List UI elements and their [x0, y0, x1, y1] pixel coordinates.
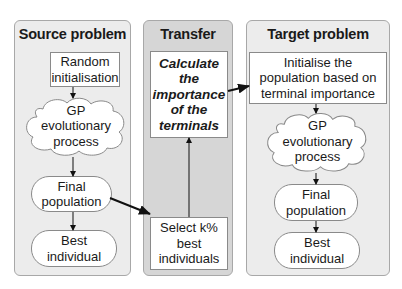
node-line: process	[282, 149, 352, 165]
node-line: terminals	[153, 118, 226, 134]
node-line: GP	[41, 103, 111, 119]
node-line: process	[41, 134, 111, 150]
node-line: the	[153, 71, 226, 87]
node-line: Final	[42, 179, 102, 195]
node-line: terminal importance	[259, 86, 376, 102]
node-line: Select k%	[159, 220, 220, 236]
node-line: Calculate	[153, 56, 226, 72]
node-line: Random	[51, 54, 118, 70]
node-line: Best	[47, 233, 101, 249]
target-best-individual-node: Best individual	[274, 232, 360, 269]
node-line: Final	[286, 187, 346, 203]
node-line: initialisation	[51, 70, 118, 86]
transfer-select-best-individuals-node: Select k% best individuals	[150, 217, 228, 270]
target-final-population-node: Final population	[274, 184, 358, 221]
node-line: Initialise the	[259, 55, 376, 71]
node-line: individual	[290, 251, 344, 267]
node-line: population based on	[259, 70, 376, 86]
target-problem-title: Target problem	[247, 26, 389, 42]
source-best-individual-node: Best individual	[31, 230, 117, 267]
node-line: best	[159, 236, 220, 252]
node-line: evolutionary	[41, 118, 111, 134]
node-line: Best	[290, 235, 344, 251]
source-final-population-node: Final population	[31, 176, 112, 212]
target-initialise-population-node: Initialise the population based on termi…	[249, 52, 387, 104]
node-line: GP	[282, 118, 352, 134]
node-line: individual	[47, 249, 101, 265]
source-gp-evolutionary-process-node: GP evolutionary process	[23, 95, 129, 157]
transfer-calculate-importance-node: Calculate the importance of the terminal…	[150, 51, 228, 138]
node-line: of the	[153, 102, 226, 118]
node-line: evolutionary	[282, 134, 352, 150]
node-line: population	[286, 203, 346, 219]
target-gp-evolutionary-process-node: GP evolutionary process	[264, 110, 371, 173]
transfer-title: Transfer	[144, 26, 232, 42]
node-line: individuals	[159, 251, 220, 267]
source-random-initialisation-node: Random initialisation	[50, 52, 120, 87]
node-line: population	[42, 194, 102, 210]
source-problem-title: Source problem	[15, 26, 130, 42]
node-line: importance	[153, 87, 226, 103]
